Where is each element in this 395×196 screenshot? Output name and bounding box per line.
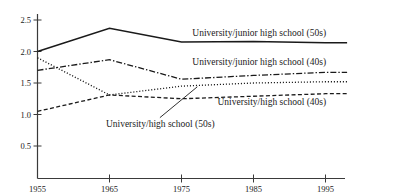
annotation-leader-3 [160, 87, 197, 118]
x-axis-tick-label: 1975 [173, 184, 190, 194]
series-label-0: University/junior high school (50s) [192, 28, 326, 39]
y-axis-tick-label: 2.5 [20, 15, 31, 25]
y-axis-tick-label: 1.0 [20, 110, 31, 120]
y-axis-tick-label: 1.5 [20, 78, 31, 88]
series-label-1: University/junior high school (40s) [192, 57, 326, 68]
chart-series-labels: University/junior high school (50s)Unive… [106, 28, 326, 130]
x-axis-tick-labels: 19551965197519851995 [29, 184, 334, 194]
x-axis-tick-label: 1955 [29, 184, 46, 194]
x-axis-tick-label: 1985 [245, 184, 262, 194]
series-label-3: University/high school (50s) [106, 119, 215, 130]
y-axis-tick-labels: 0.51.01.52.02.5 [20, 15, 31, 151]
line-chart: 0.51.01.52.02.5 19551965197519851995 Uni… [0, 0, 395, 196]
chart-annotations [160, 87, 197, 118]
chart-canvas: 0.51.01.52.02.5 19551965197519851995 Uni… [0, 0, 395, 196]
y-axis-tick-label: 0.5 [20, 141, 31, 151]
x-axis-tick-label: 1995 [317, 184, 334, 194]
x-axis-tick-label: 1965 [101, 184, 118, 194]
series-label-2: University/high school (40s) [218, 97, 327, 108]
y-axis-tick-label: 2.0 [20, 47, 31, 57]
